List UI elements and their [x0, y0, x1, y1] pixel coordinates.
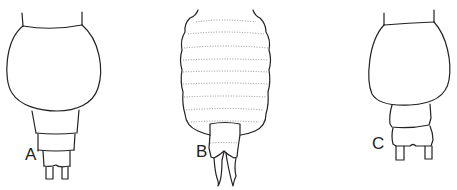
- specimen-b-drawing: [181, 10, 271, 186]
- specimen-a-drawing: [7, 12, 101, 179]
- figure-canvas: [0, 0, 457, 190]
- panel-label-b: B: [196, 143, 207, 160]
- panel-label-c: C: [372, 135, 384, 152]
- panel-label-a: A: [25, 146, 36, 163]
